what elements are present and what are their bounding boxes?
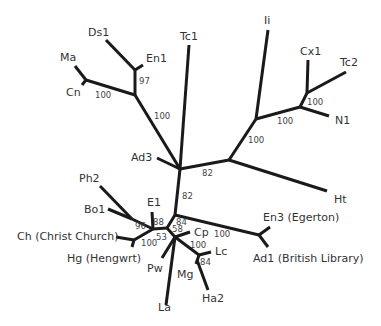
branch-n1 bbox=[300, 107, 329, 116]
support-value: 100 bbox=[214, 229, 230, 239]
branch-ht bbox=[229, 160, 327, 191]
leaf-label: Ds1 bbox=[88, 26, 109, 39]
leaf-label: Cp bbox=[194, 226, 209, 239]
support-value: 100 bbox=[154, 111, 170, 121]
leaf-label: Ph2 bbox=[79, 172, 100, 185]
leaf-label: Mg bbox=[177, 268, 193, 281]
leaf-label: N1 bbox=[335, 114, 350, 127]
branch-lower-clade bbox=[175, 169, 180, 215]
leaf-label: Ad1 (British Library) bbox=[253, 252, 364, 265]
branch-tc1 bbox=[180, 45, 189, 169]
leaf-labels: Ds1 En1 Ma Cn Tc1 Ii Cx1 Tc2 N1 Ad3 Ht P… bbox=[17, 14, 364, 314]
leaf-label: En3 (Egerton) bbox=[263, 211, 339, 224]
support-value: 100 bbox=[95, 90, 111, 100]
leaf-label: Pw bbox=[147, 262, 163, 275]
branch-tc2 bbox=[307, 72, 346, 93]
leaf-label: En1 bbox=[146, 52, 167, 65]
leaf-label: Hg (Hengwrt) bbox=[67, 252, 141, 265]
support-value: 82 bbox=[182, 191, 193, 201]
support-value: 88 bbox=[153, 217, 164, 227]
support-value: 97 bbox=[139, 76, 150, 86]
branch-ds1 bbox=[106, 40, 135, 70]
support-value: 100 bbox=[307, 97, 323, 107]
support-value: 58 bbox=[172, 224, 183, 234]
leaf-label: Ht bbox=[334, 193, 347, 206]
support-value: 100 bbox=[190, 240, 206, 250]
branch-cn bbox=[82, 80, 86, 85]
branch-cx1-tc2-clade bbox=[300, 93, 307, 107]
leaf-label: Ha2 bbox=[202, 292, 224, 305]
leaf-label: E1 bbox=[147, 196, 161, 209]
branch-ma bbox=[75, 66, 86, 80]
branch-ch bbox=[116, 237, 134, 240]
branch-en3 bbox=[259, 227, 270, 235]
support-value: 100 bbox=[277, 116, 293, 126]
support-value: 82 bbox=[202, 168, 213, 178]
support-value: 84 bbox=[200, 257, 211, 267]
branch-hg bbox=[132, 240, 134, 247]
leaf-label: Tc2 bbox=[339, 56, 358, 69]
phylogenetic-tree: Ds1 En1 Ma Cn Tc1 Ii Cx1 Tc2 N1 Ad3 Ht P… bbox=[0, 0, 381, 326]
branch-lc bbox=[199, 252, 211, 255]
branch-ad1 bbox=[259, 235, 268, 247]
branch-cx1 bbox=[307, 60, 308, 93]
branch-en1 bbox=[135, 65, 143, 70]
support-value: 96 bbox=[135, 221, 146, 231]
leaf-label: Cn bbox=[66, 86, 81, 99]
leaf-label: Ad3 bbox=[131, 151, 152, 164]
leaf-label: Ii bbox=[264, 14, 270, 27]
support-value: 53 bbox=[156, 232, 167, 242]
leaf-label: Lc bbox=[215, 245, 227, 258]
branch-ii bbox=[256, 30, 268, 119]
support-value: 100 bbox=[248, 135, 264, 145]
leaf-label: Bo1 bbox=[84, 203, 105, 216]
support-value: 100 bbox=[141, 238, 157, 248]
leaf-label: Ch (Christ Church) bbox=[17, 230, 118, 243]
leaf-label: Tc1 bbox=[179, 30, 198, 43]
leaf-label: Cx1 bbox=[300, 45, 321, 58]
leaf-label: La bbox=[158, 301, 171, 314]
leaf-label: Ma bbox=[60, 51, 76, 64]
branch-e1-group bbox=[153, 228, 167, 229]
